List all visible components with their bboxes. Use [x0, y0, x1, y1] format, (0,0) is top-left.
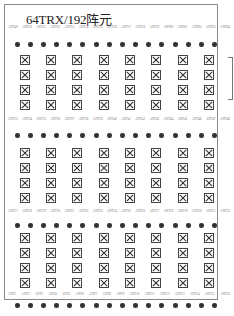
- antenna-element-icon: [99, 233, 109, 243]
- antenna-label: ANT39: [93, 117, 103, 121]
- antenna-label: ANT16: [220, 292, 230, 296]
- antenna-element-icon: [151, 148, 161, 158]
- port-dot-icon: [94, 303, 99, 308]
- antenna-element-icon: [178, 278, 188, 288]
- antenna-label: ANT54: [79, 25, 89, 29]
- port-dot-icon: [159, 133, 164, 138]
- antenna-element-icon: [46, 278, 56, 288]
- antenna-label: ANT7: [89, 292, 97, 296]
- antenna-label: ANT32: [220, 209, 230, 213]
- antenna-label: ANT36: [50, 117, 60, 121]
- antenna-label: ANT61: [178, 25, 188, 29]
- antenna-element-icon: [46, 100, 56, 110]
- port-dot-icon: [28, 223, 33, 228]
- antenna-label: ANT12: [160, 292, 170, 296]
- antenna-label: ANT8: [103, 292, 111, 296]
- port-dot-icon: [120, 303, 125, 308]
- antenna-element-icon: [20, 55, 30, 65]
- antenna-label: ANT4: [49, 292, 57, 296]
- antenna-element-icon: [99, 148, 109, 158]
- antenna-label: ANT15: [205, 292, 215, 296]
- antenna-element-icon: [99, 55, 109, 65]
- port-dot-icon: [80, 303, 85, 308]
- antenna-element-icon: [46, 55, 56, 65]
- antenna-element-icon: [125, 178, 135, 188]
- port-dot-icon: [146, 303, 151, 308]
- antenna-element-icon: [46, 248, 56, 258]
- antenna-label: ANT17: [8, 209, 18, 213]
- port-dot-icon: [67, 42, 72, 47]
- antenna-element-icon: [178, 148, 188, 158]
- antenna-element-icon: [151, 278, 161, 288]
- antenna-element-icon: [204, 70, 214, 80]
- antenna-label: ANT59: [149, 25, 159, 29]
- antenna-element-icon: [178, 100, 188, 110]
- antenna-label: ANT11: [145, 292, 155, 296]
- port-dot-icon: [212, 303, 217, 308]
- port-dot-icon: [146, 42, 151, 47]
- antenna-element-icon: [20, 233, 30, 243]
- antenna-element-icon: [20, 193, 30, 203]
- antenna-element-icon: [204, 55, 214, 65]
- antenna-element-icon: [204, 163, 214, 173]
- antenna-element-icon: [151, 70, 161, 80]
- port-dot-icon: [41, 133, 46, 138]
- antenna-label: ANT55: [93, 25, 103, 29]
- antenna-element-icon: [72, 55, 82, 65]
- antenna-label: ANT19: [36, 209, 46, 213]
- antenna-element-icon: [178, 193, 188, 203]
- antenna-element-icon: [72, 178, 82, 188]
- antenna-label: ANT47: [206, 117, 216, 121]
- antenna-element-icon: [151, 248, 161, 258]
- antenna-element-icon: [125, 163, 135, 173]
- antenna-element-icon: [46, 163, 56, 173]
- antenna-label: ANT63: [206, 25, 216, 29]
- antenna-element-icon: [151, 163, 161, 173]
- port-dot-icon: [199, 223, 204, 228]
- antenna-element-icon: [72, 233, 82, 243]
- antenna-element-icon: [125, 248, 135, 258]
- antenna-element-icon: [151, 85, 161, 95]
- port-dot-icon: [54, 303, 59, 308]
- antenna-element-icon: [204, 263, 214, 273]
- antenna-label-row: ANT1ANT2ANT3ANT4ANT5ANT6ANT7ANT8ANT9ANT1…: [8, 292, 230, 296]
- antenna-element-icon: [72, 263, 82, 273]
- port-dot-icon: [80, 133, 85, 138]
- port-dot-icon: [133, 223, 138, 228]
- antenna-element-icon: [125, 193, 135, 203]
- antenna-element-icon: [20, 85, 30, 95]
- antenna-label: ANT44: [164, 117, 174, 121]
- port-dot-icon: [15, 133, 20, 138]
- port-dot-icon: [120, 42, 125, 47]
- port-dot-icon: [173, 42, 178, 47]
- antenna-label: ANT25: [121, 209, 131, 213]
- antenna-label: ANT33: [8, 117, 18, 121]
- port-dot-icon: [133, 133, 138, 138]
- antenna-label: ANT22: [79, 209, 89, 213]
- antenna-element-icon: [20, 263, 30, 273]
- antenna-element-icon: [20, 163, 30, 173]
- antenna-label: ANT49: [8, 25, 18, 29]
- antenna-label: ANT23: [93, 209, 103, 213]
- port-dot-icon: [212, 133, 217, 138]
- port-dot-icon: [199, 42, 204, 47]
- antenna-element-icon: [204, 193, 214, 203]
- antenna-label: ANT51: [36, 25, 46, 29]
- port-dot-icon: [146, 133, 151, 138]
- antenna-label: ANT34: [22, 117, 32, 121]
- antenna-element-icon: [20, 278, 30, 288]
- port-dot-icon: [173, 303, 178, 308]
- port-dot-icon: [80, 223, 85, 228]
- antenna-element-icon: [125, 233, 135, 243]
- port-dot-icon: [146, 223, 151, 228]
- antenna-label-row: ANT33ANT34ANT35ANT36ANT37ANT38ANT39ANT40…: [8, 117, 230, 121]
- antenna-element-icon: [99, 193, 109, 203]
- antenna-element-icon: [204, 100, 214, 110]
- antenna-element-icon: [151, 100, 161, 110]
- port-dot-icon: [159, 223, 164, 228]
- port-dot-icon: [107, 42, 112, 47]
- antenna-element-icon: [178, 263, 188, 273]
- antenna-element-icon: [72, 148, 82, 158]
- antenna-label: ANT50: [22, 25, 32, 29]
- port-dot-icon: [67, 223, 72, 228]
